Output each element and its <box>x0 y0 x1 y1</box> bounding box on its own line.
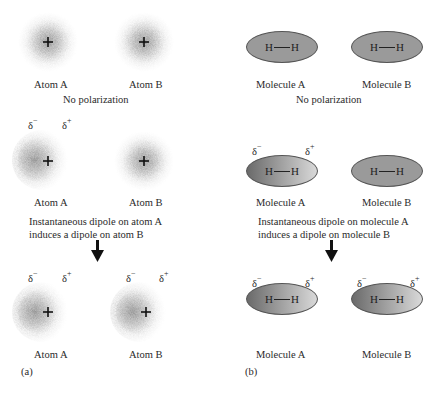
bond-icon <box>274 47 290 48</box>
electron-cloud-atom-b-row3 <box>110 282 170 342</box>
molecule-a-label-row1: Molecule A <box>256 79 305 90</box>
delta-minus-atom-a: δ− <box>28 117 37 131</box>
atom-b-label-row2: Atom B <box>129 197 163 208</box>
atom-a-label-row1: Atom A <box>34 79 68 90</box>
molecule-a-label-row3: Molecule A <box>256 349 305 360</box>
molecule-b-label-row2: Molecule B <box>362 197 411 208</box>
panel-label-b: (b) <box>245 366 257 377</box>
electron-cloud-atom-a-row2 <box>12 130 72 190</box>
panel-label-a: (a) <box>21 366 33 377</box>
atom-a-label-row2: Atom A <box>34 197 68 208</box>
down-arrow-icon-a <box>91 240 104 262</box>
molecule-b-label-row1: Molecule B <box>362 79 411 90</box>
caption-instantaneous-dipole-b: Instantaneous dipole on molecule A induc… <box>258 215 408 241</box>
molecule-b-row2: HH <box>351 155 423 187</box>
bond-icon <box>379 299 395 300</box>
bond-icon <box>274 171 290 172</box>
electron-cloud-atom-a-row3 <box>12 282 72 342</box>
delta-plus-atom-b-row3: δ+ <box>159 270 168 284</box>
bond-icon <box>379 47 395 48</box>
molecule-a-row1: HH <box>246 31 318 63</box>
molecule-b-row1: HH <box>351 31 423 63</box>
caption-no-polarization-a: No polarization <box>63 94 129 105</box>
atom-a-label-row3: Atom A <box>34 349 68 360</box>
delta-minus-atom-a-row3: δ− <box>28 270 37 284</box>
molecule-b-row3: HH <box>351 283 423 315</box>
atom-b-label-row3: Atom B <box>129 349 163 360</box>
molecule-a-label-row2: Molecule A <box>256 197 305 208</box>
atom-b-label-row1: Atom B <box>129 79 163 90</box>
delta-minus-atom-b-row3: δ− <box>126 270 135 284</box>
molecule-a-row3: HH <box>246 283 318 315</box>
bond-icon <box>274 299 290 300</box>
delta-plus-molecule-a: δ+ <box>305 143 314 157</box>
down-arrow-icon-b <box>325 240 338 262</box>
delta-plus-atom-a: δ+ <box>62 117 71 131</box>
molecule-a-row2: HH <box>246 155 318 187</box>
molecule-b-label-row3: Molecule B <box>362 349 411 360</box>
bond-icon <box>379 171 395 172</box>
delta-minus-molecule-a: δ− <box>252 143 261 157</box>
delta-plus-atom-a-row3: δ+ <box>62 270 71 284</box>
caption-no-polarization-b: No polarization <box>296 94 362 105</box>
caption-instantaneous-dipole-a: Instantaneous dipole on atom A induces a… <box>29 215 162 241</box>
